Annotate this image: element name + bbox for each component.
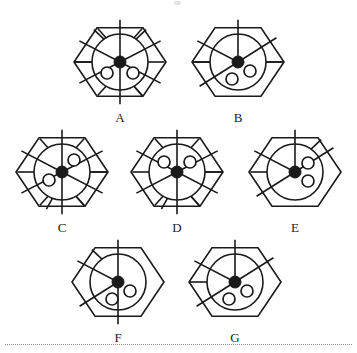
small-circle-pip bbox=[68, 154, 80, 166]
figure-diagram bbox=[177, 230, 293, 334]
radial-spoke bbox=[21, 172, 62, 193]
figure-sheet: ABCDEFG bbox=[0, 0, 357, 353]
small-circle-pip bbox=[244, 65, 256, 77]
small-circle-pip bbox=[241, 285, 253, 297]
figure-label: G bbox=[205, 330, 265, 345]
figure-diagram bbox=[237, 120, 353, 224]
small-circle-pip bbox=[158, 156, 170, 168]
radial-spoke bbox=[79, 62, 120, 83]
outer-spur bbox=[191, 196, 200, 206]
rim-to-edge-spur bbox=[76, 139, 84, 148]
radial-spoke bbox=[194, 261, 235, 282]
small-circle-pip bbox=[127, 67, 139, 79]
figure-diagram bbox=[60, 230, 176, 334]
figure-label: F bbox=[88, 330, 148, 345]
radial-spoke bbox=[136, 151, 177, 172]
small-circle-pip bbox=[226, 73, 238, 85]
center-hub bbox=[56, 166, 68, 178]
center-hub bbox=[112, 276, 124, 288]
radial-spoke bbox=[197, 41, 238, 62]
small-circle-pip bbox=[43, 174, 55, 186]
page-artifact-speck bbox=[174, 1, 181, 5]
radial-spoke bbox=[177, 172, 218, 193]
small-circle-pip bbox=[124, 285, 136, 297]
small-circle-pip bbox=[302, 157, 314, 169]
radial-spoke bbox=[120, 41, 161, 62]
page-separator-rule bbox=[5, 344, 352, 346]
small-circle-pip bbox=[101, 67, 113, 79]
center-hub bbox=[114, 56, 126, 68]
small-circle-pip bbox=[302, 175, 314, 187]
outer-spur bbox=[76, 196, 85, 206]
figure-diagram bbox=[180, 10, 296, 114]
center-hub bbox=[289, 166, 301, 178]
outer-spur bbox=[134, 86, 143, 96]
figure-diagram bbox=[119, 120, 235, 224]
figure-diagram bbox=[4, 120, 120, 224]
center-hub bbox=[171, 166, 183, 178]
rim-to-edge-spur bbox=[155, 196, 163, 205]
figure-diagram bbox=[62, 10, 178, 114]
radial-spoke bbox=[77, 261, 118, 282]
rim-to-edge-spur bbox=[191, 139, 199, 148]
small-circle-pip bbox=[223, 293, 235, 305]
rim-to-edge-spur bbox=[98, 86, 106, 95]
center-hub bbox=[232, 56, 244, 68]
center-hub bbox=[229, 276, 241, 288]
radial-spoke bbox=[120, 62, 161, 83]
outer-spur bbox=[311, 140, 321, 149]
radial-spoke bbox=[254, 151, 295, 172]
rim-to-edge-spur bbox=[40, 139, 48, 148]
outer-spur bbox=[46, 198, 52, 209]
radial-spoke bbox=[21, 151, 62, 172]
radial-spoke bbox=[136, 172, 177, 193]
rim-to-edge-spur bbox=[40, 196, 48, 205]
outer-spur bbox=[161, 198, 167, 209]
small-circle-pip bbox=[184, 156, 196, 168]
small-circle-pip bbox=[106, 293, 118, 305]
radial-spoke bbox=[79, 41, 120, 62]
outer-spur bbox=[92, 250, 102, 259]
radial-spoke bbox=[177, 151, 218, 172]
rim-to-edge-spur bbox=[155, 139, 163, 148]
radial-spoke bbox=[62, 172, 103, 193]
